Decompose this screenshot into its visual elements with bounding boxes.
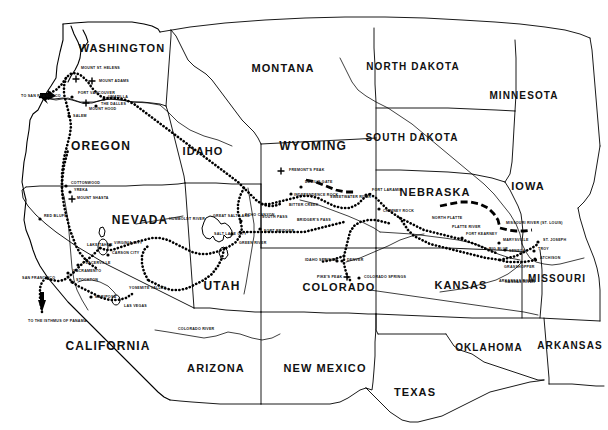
place-label: ATCHISON [540, 256, 561, 260]
state-label: NEW MEXICO [283, 362, 366, 374]
border-ut-az [194, 308, 261, 312]
border-ia-il [578, 146, 600, 208]
state-label: IOWA [511, 180, 545, 192]
border-az-mexico [170, 400, 261, 404]
place-label: MARIPOSA [95, 295, 117, 299]
place-label: FORT LARAMIE [372, 188, 403, 192]
city-dot-marker [106, 253, 109, 256]
place-label: MOUNT SHASTA [77, 196, 109, 200]
place-label: PIKE'S PEAK [317, 275, 343, 279]
city-dot-marker [64, 184, 67, 187]
state-label: KANSAS [434, 279, 487, 291]
city-dot-marker [70, 95, 73, 98]
state-label: UTAH [204, 279, 241, 293]
border-ks-ok [376, 314, 600, 321]
place-label: PLATTE RIVER [452, 225, 481, 229]
state-label: NORTH DAKOTA [366, 61, 460, 72]
state-label: CALIFORNIA [66, 339, 151, 353]
city-dot-marker [239, 219, 242, 222]
river-snake [160, 105, 232, 146]
map-canvas: WASHINGTONMONTANANORTH DAKOTAMINNESOTAOR… [0, 0, 608, 430]
place-label: BITTER CREEK [289, 203, 319, 207]
city-dot-marker [102, 97, 105, 100]
minnesota-east-edge [590, 38, 600, 146]
border-tx-outline [366, 380, 544, 422]
northern-border-group [160, 17, 600, 146]
place-label: RED BLUFF [44, 214, 67, 218]
place-label: SACRAMENTO [73, 269, 101, 273]
river-sacramento [64, 196, 88, 310]
city-dot-marker [66, 271, 69, 274]
historical-trails-map: WASHINGTONMONTANANORTH DAKOTAMINNESOTAOR… [0, 0, 608, 430]
state-label: NEBRASKA [399, 186, 470, 198]
city-dot-marker [532, 249, 535, 252]
river-platte [380, 232, 520, 260]
place-label: BIG BLUE [489, 247, 509, 251]
place-label: CHIMNEY ROCK [383, 209, 414, 213]
place-label: SAN FRANCISCO [22, 276, 55, 280]
trail-dashed-missouri-approach [500, 228, 532, 231]
trail-salt-lake-cutoff [224, 188, 244, 249]
place-label: LAKE TAHOE [87, 243, 113, 247]
city-dot-marker [299, 185, 302, 188]
mountain-peak-marker [278, 168, 284, 174]
canada-border [160, 17, 590, 38]
border-nm-mexico [261, 388, 366, 404]
place-label: THE DALLES [101, 102, 126, 106]
place-label: FREMONT'S PEAK [289, 168, 325, 172]
place-label: IDAHO SPRINGS [305, 258, 337, 262]
state-label: MONTANA [251, 62, 314, 74]
state-label: MISSOURI [528, 273, 586, 284]
border-or-nv-ca [26, 183, 185, 187]
border-id-ut [185, 183, 261, 184]
state-label: WASHINGTON [79, 42, 166, 54]
border-ok-tx [446, 334, 544, 380]
place-label: YOSEMITE VALLEY [129, 286, 167, 290]
state-label: COLORADO [303, 281, 376, 293]
washington-north-coast [63, 22, 160, 32]
city-dot-marker [70, 280, 73, 283]
place-label: YREKA [74, 188, 88, 192]
border-id-mt [171, 30, 261, 144]
place-label: HUMBOLDT RIVER [169, 217, 205, 221]
state-label: OREGON [71, 139, 131, 153]
city-dot-marker [497, 241, 500, 244]
place-label: COLORADO RIVER [178, 327, 215, 331]
border-sd-ne [376, 170, 505, 182]
state-label: ARKANSAS [537, 340, 602, 351]
river-missouri-upper [340, 58, 522, 244]
city-dot-marker [289, 192, 292, 195]
state-label: MINNESOTA [489, 90, 558, 101]
trail-humboldt-alt [142, 246, 148, 280]
place-label: MOUNT ST. HELENS [81, 66, 120, 70]
city-dot-marker [377, 207, 380, 210]
trail-siskiyou [62, 150, 68, 198]
state-label: IDAHO [183, 145, 224, 157]
place-label: TO THE ISTHMUS OF PANAMA [28, 319, 87, 323]
place-label: COTTONWOOD [71, 181, 100, 185]
mountain-peak-marker [83, 100, 89, 106]
place-label: MOUNT HOOD [89, 107, 117, 111]
place-label: STOCKTON [76, 278, 98, 282]
place-label: TROY [538, 247, 549, 251]
place-label: GRASSHOPPER [504, 265, 535, 269]
place-label: FORT BRIDGER [264, 229, 295, 233]
place-label: TO SAN FRANCISCO [21, 94, 61, 98]
state-label: SOUTH DAKOTA [365, 132, 458, 143]
city-dot-marker [460, 236, 463, 239]
city-dot-marker [536, 240, 539, 243]
border-mt-nd [374, 28, 376, 138]
city-dot-marker [357, 276, 360, 279]
place-label: SALT LAKE CITY [214, 232, 247, 236]
city-dot-marker [258, 227, 261, 230]
place-label: SALEM [73, 114, 87, 118]
place-label: MISSOURI RIVER (ST. LOUIS) [506, 221, 563, 225]
place-label: UMATILLA [108, 95, 128, 99]
border-ok-ar [544, 318, 549, 384]
border-nm-tx [366, 314, 376, 390]
border-wa-id [166, 30, 171, 106]
place-label: MARYSVILLE [503, 238, 529, 242]
place-label: MOUNT ADAMS [99, 79, 129, 83]
city-dot-marker [340, 259, 343, 262]
city-dot-marker [67, 114, 70, 117]
